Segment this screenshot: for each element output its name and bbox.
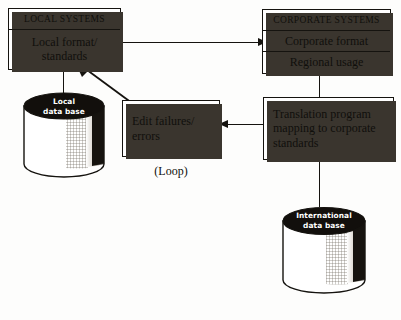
translation-program-box[interactable]: Translation program mapping to corporate… — [263, 97, 394, 160]
connector-translation-to-edit-failures — [222, 124, 265, 125]
loop-caption: (Loop) — [122, 164, 220, 179]
connector-translation-to-international-db — [319, 159, 320, 207]
corporate-systems-header: CORPORATE SYSTEMS — [263, 10, 390, 30]
edit-failures-text: Edit failures/ errors — [123, 101, 219, 156]
diagram-canvas: Local data base In — [0, 0, 401, 320]
corporate-systems-box[interactable]: CORPORATE SYSTEMS Corporate format Regio… — [262, 9, 391, 74]
local-systems-row-format: Local format/ standards — [9, 29, 120, 69]
connector-local-to-corporate — [121, 42, 267, 43]
local-systems-header: LOCAL SYSTEMS — [9, 9, 120, 29]
corporate-systems-row-format: Corporate format — [263, 30, 390, 51]
edit-failures-box[interactable]: Edit failures/ errors — [122, 100, 220, 157]
corporate-systems-row-regional: Regional usage — [263, 51, 390, 72]
connector-corporate-to-translation — [319, 73, 320, 98]
local-systems-box[interactable]: LOCAL SYSTEMS Local format/ standards — [8, 8, 121, 70]
local-database-cylinder: Local data base — [22, 92, 106, 182]
international-database-cylinder: International data base — [281, 206, 367, 298]
translation-program-text: Translation program mapping to corporate… — [264, 98, 393, 159]
